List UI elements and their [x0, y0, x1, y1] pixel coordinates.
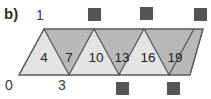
triangle-label-3: 13 [114, 50, 129, 65]
marker-square-bottom-1 [116, 82, 129, 95]
marker-row-top [88, 7, 207, 21]
triangle-strip-figure: 4 7 10 13 16 19 [0, 0, 211, 99]
triangle-label-5: 19 [167, 50, 182, 65]
marker-square-top-3 [194, 8, 207, 21]
marker-square-top-1 [88, 8, 101, 21]
triangle-label-4: 16 [140, 50, 155, 65]
vertex-label-bottom-left: 0 [5, 78, 13, 92]
vertex-label-bottom-mid: 3 [58, 78, 66, 92]
triangle-label-1: 7 [65, 50, 73, 65]
triangle-label-0: 4 [40, 50, 48, 65]
marker-square-top-2 [140, 7, 153, 20]
marker-square-bottom-2 [167, 82, 180, 95]
marker-row-bottom [116, 82, 180, 95]
vertex-label-top-left: 1 [36, 8, 44, 22]
panel-label: b) [4, 6, 18, 21]
triangle-label-2: 10 [88, 50, 103, 65]
